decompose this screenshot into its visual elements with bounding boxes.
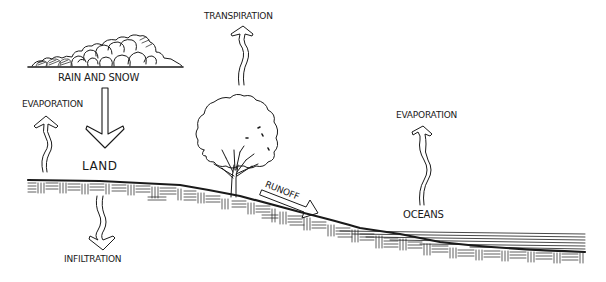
ocean-water xyxy=(340,231,585,249)
infiltration-arrow-icon xyxy=(89,196,115,250)
cloud-icon xyxy=(28,35,183,67)
precipitation-arrow-icon xyxy=(86,88,124,148)
evaporation-ocean-arrow-icon xyxy=(412,126,432,205)
diagram-artwork xyxy=(0,0,606,282)
transpiration-arrow-icon xyxy=(231,26,253,85)
evaporation-ocean-label: EVAPORATION xyxy=(396,111,457,120)
oceans-label: OCEANS xyxy=(403,210,444,220)
ground-profile xyxy=(28,180,585,263)
evaporation-land-arrow-icon xyxy=(34,116,58,172)
rain-and-snow-label: RAIN AND SNOW xyxy=(58,73,139,83)
transpiration-label: TRANSPIRATION xyxy=(204,12,273,21)
land-label: LAND xyxy=(82,160,117,172)
infiltration-label: INFILTRATION xyxy=(64,255,121,264)
water-cycle-diagram: RAIN AND SNOW EVAPORATION LAND INFILTRAT… xyxy=(0,0,606,282)
evaporation-land-label: EVAPORATION xyxy=(22,100,83,109)
